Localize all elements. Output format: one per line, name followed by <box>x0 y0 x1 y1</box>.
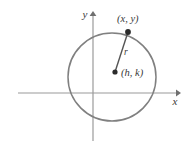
y-axis-arrow-icon <box>90 11 97 16</box>
figure-container: (x, y) (h, k) r y x <box>0 0 188 155</box>
center-point-label: (h, k) <box>121 67 144 79</box>
center-point-marker <box>112 69 117 74</box>
x-axis-label: x <box>172 95 178 107</box>
y-axis-label: y <box>82 8 88 20</box>
radius-label: r <box>124 47 128 57</box>
circle-diagram: (x, y) (h, k) r y x <box>0 0 188 155</box>
circle-point-marker <box>125 29 131 35</box>
circle-point-label: (x, y) <box>117 13 139 25</box>
